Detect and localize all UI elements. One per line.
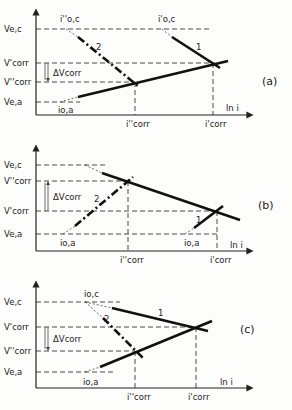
label-curve-2: 2 [96,42,101,52]
panel-a: Ve,c V'corr ΔVcorr V''corr Ve,a i''o,c i… [4,12,277,129]
label-ve-a: Ve,a [4,367,22,377]
label-ve-a: Ve,a [4,229,22,239]
cathodic-tafel-line [102,173,240,220]
cathodic-2-extrapolation [66,29,78,37]
label-vcorr-dprime: V''corr [4,346,32,356]
label-io-a-left: io,a [60,238,75,248]
anodic-extrapolation [85,367,100,372]
label-curve-2: 2 [94,194,99,204]
label-icorr-dprime: i''corr [120,255,144,265]
label-icorr-prime: i'corr [205,119,227,129]
label-io-c-prime: i'o,c [158,14,176,24]
label-icorr-dprime: i''corr [127,392,151,402]
label-x-axis: ln i [220,377,233,387]
label-vcorr-dprime: V''corr [4,77,32,87]
label-delta-vcorr: ΔVcorr [53,192,82,202]
panel-label-c: (c) [240,323,255,336]
anodic-1-extrapolation [185,228,194,234]
label-delta-vcorr: ΔVcorr [53,334,82,344]
anodic-2-tafel-line [75,177,133,226]
label-io-a: io,a [58,105,73,115]
label-vcorr-prime: V'corr [4,206,29,216]
label-ve-c: Ve,c [4,160,22,170]
anodic-2-extrapolation [63,226,75,234]
label-curve-1: 1 [158,308,163,318]
panel-label-b: (b) [258,199,274,212]
label-io-c: io,c [84,289,99,299]
anodic-extrapolation [60,97,78,102]
label-io-a: io,a [83,377,98,387]
label-curve-1: 1 [196,42,201,52]
panel-label-a: (a) [262,75,277,88]
label-icorr-dprime: i''corr [126,119,150,129]
label-curve-2: 2 [104,314,109,324]
label-icorr-prime: i'corr [188,392,210,402]
label-icorr-prime: i'corr [210,255,232,265]
cathodic-1-extrapolation [85,302,112,308]
label-vcorr-prime: V'corr [4,322,29,332]
cathodic-1-extrapolation [162,29,172,37]
label-ve-a: Ve,a [4,97,22,107]
label-ve-c: Ve,c [4,24,22,34]
cathodic-extrapolation [85,165,102,173]
label-vcorr-dprime: V''corr [4,176,32,186]
panel-b: Ve,c V''corr ΔVcorr V'corr Ve,a io,a io,… [4,148,274,265]
label-io-c-dprime: i''o,c [60,14,80,24]
label-delta-vcorr: ΔVcorr [53,68,82,78]
label-curve-1: 1 [196,215,201,225]
label-vcorr-prime: V'corr [4,58,29,68]
evans-diagram-figure: Ve,c V'corr ΔVcorr V''corr Ve,a i''o,c i… [0,0,292,410]
label-ve-c: Ve,c [4,297,22,307]
label-io-a-right: io,a [184,238,199,248]
label-x-axis: ln i [226,103,239,113]
anodic-tafel-line [78,61,228,97]
cathodic-2-tafel-line [78,37,138,86]
anodic-tafel-line [100,321,212,367]
diagram-canvas: Ve,c V'corr ΔVcorr V''corr Ve,a i''o,c i… [0,0,292,410]
panel-c: Ve,c V'corr ΔVcorr V''corr Ve,a io,c io,… [4,284,255,402]
label-x-axis: ln i [230,240,243,250]
